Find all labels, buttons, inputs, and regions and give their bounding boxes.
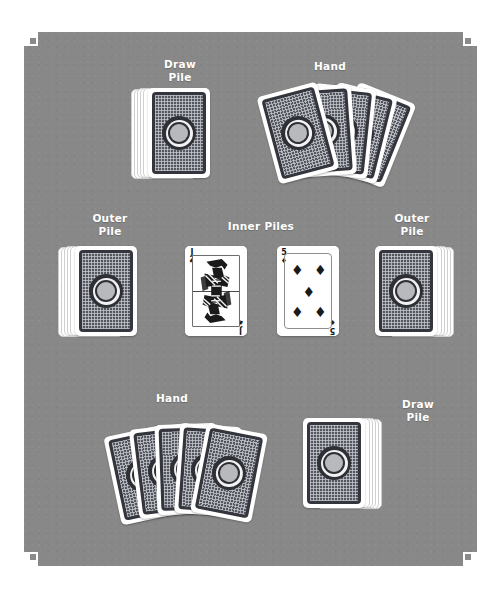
corner-nub-top-right (465, 38, 471, 44)
hand-bottom[interactable] (108, 416, 268, 541)
pip: ♦ (314, 263, 325, 277)
pip: ♦ (291, 305, 302, 319)
corner-nub-bottom-right (465, 554, 471, 560)
jack-of-spades: J ♠ J ♠ (185, 246, 247, 336)
hand-top[interactable] (262, 76, 402, 196)
card-back[interactable] (303, 418, 365, 508)
card-back-face (152, 92, 206, 174)
pip-layout: ♦ ♦ ♦ ♦ ♦ (284, 253, 332, 329)
card-table-board: Draw Pile Hand (0, 0, 501, 598)
card-back[interactable] (75, 246, 137, 336)
pip: ♦ (314, 305, 325, 319)
inner-pile-right-card[interactable]: 5 ♦ 5 ♦ ♦ ♦ ♦ ♦ ♦ (277, 246, 339, 336)
pip: ♦ (291, 263, 302, 277)
card-back[interactable] (148, 88, 210, 178)
card-back-hub (170, 124, 188, 142)
corner-nub-top-left (30, 38, 36, 44)
corner-nub-bottom-left (30, 554, 36, 560)
five-of-diamonds: 5 ♦ 5 ♦ ♦ ♦ ♦ ♦ ♦ (277, 246, 339, 336)
inner-pile-left-card[interactable]: J ♠ J ♠ (185, 246, 247, 336)
jack-figure-icon (193, 256, 239, 326)
card-back[interactable] (375, 246, 437, 336)
court-card-artwork (192, 255, 240, 327)
pip: ♦ (303, 285, 314, 299)
